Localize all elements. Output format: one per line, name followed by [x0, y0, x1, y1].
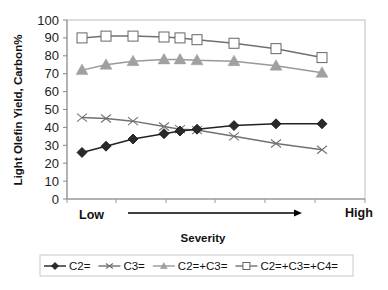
y-tick-label: 20 [45, 156, 59, 171]
y-tick-label: 0 [52, 192, 59, 207]
x-start-label: Low [79, 208, 104, 222]
x-end-label: High [345, 206, 373, 220]
y-tick-label: 30 [45, 138, 59, 153]
y-tick-label: 90 [45, 30, 59, 45]
plot-area [67, 20, 365, 203]
y-tick-label: 60 [45, 84, 59, 99]
y-tick-label: 10 [45, 174, 59, 189]
legend-label: C2= [69, 260, 91, 272]
chart: 0102030405060708090100 Light Olefin Yiel… [0, 0, 388, 290]
x-axis-title: Severity [181, 232, 226, 244]
legend: C2=C3=C2=+C3=C2=+C3=+C4= [40, 255, 353, 276]
y-tick-label: 70 [45, 66, 59, 81]
legend-label: C3= [123, 260, 145, 272]
y-axis-title: Light Olefin Yield, Carbon% [12, 35, 24, 186]
severity-arrow [128, 210, 302, 217]
y-tick-label: 40 [45, 120, 59, 135]
y-tick-label: 50 [45, 102, 59, 117]
y-tick-label: 80 [45, 48, 59, 63]
y-tick-label: 100 [37, 13, 59, 28]
y-axis: 0102030405060708090100 [37, 13, 67, 207]
legend-label: C2=+C3=+C4= [260, 260, 338, 272]
legend-label: C2=+C3= [178, 260, 228, 272]
